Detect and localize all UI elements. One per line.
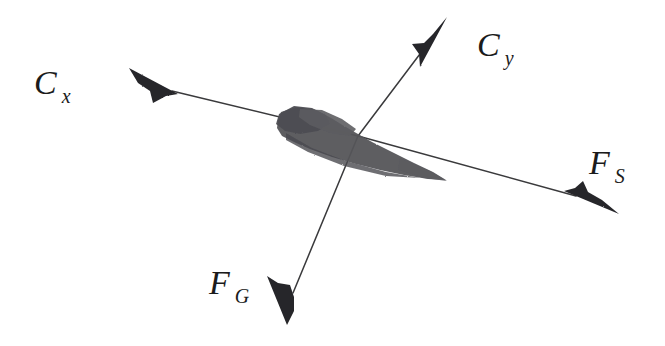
drag-arrowhead [129,68,178,103]
thrust-arrowhead [564,181,619,214]
lift-arrowhead [412,17,447,67]
label-drag-subscript: x [62,85,71,107]
label-weight-subscript: G [235,285,249,307]
label-lift-base: C [477,26,500,63]
label-thrust-FS: FS [589,146,620,180]
label-drag-base: C [34,64,57,101]
label-lift-Cy: Cy [477,28,509,62]
label-weight-base: F [209,264,230,301]
lift-vector-shaft [358,42,429,136]
force-diagram-canvas [0,0,665,346]
label-weight-FG: FG [209,266,244,300]
force-diagram-figure: Cx Cy FS FG [0,0,665,346]
weight-arrowhead [267,276,294,325]
label-thrust-subscript: S [615,165,625,187]
glider-silhouette [276,106,447,181]
label-lift-subscript: y [505,47,514,69]
label-drag-Cx: Cx [34,66,66,100]
label-thrust-base: F [589,144,610,181]
